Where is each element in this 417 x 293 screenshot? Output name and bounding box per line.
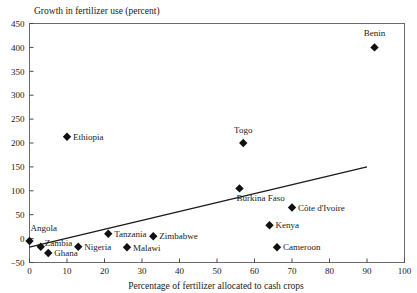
- point-label: Malawi: [133, 243, 161, 253]
- point-marker-tanzania: [104, 230, 112, 238]
- x-tick-label: 70: [288, 266, 298, 276]
- point-marker-benin: [370, 43, 378, 51]
- point-marker-angola: [25, 237, 33, 245]
- chart-title: Growth in fertilizer use (percent): [34, 6, 160, 17]
- data-point: Nigeria: [74, 242, 111, 252]
- point-label: Cameroon: [283, 242, 321, 252]
- data-point: Côte d'Ivoire: [288, 203, 345, 213]
- scatter-chart: −50050100150200250300350400450 010203040…: [0, 0, 417, 293]
- point-label: Ghana: [54, 248, 78, 258]
- x-tick-label: 20: [100, 266, 110, 276]
- point-marker-burkina-faso: [235, 184, 243, 192]
- x-tick-label: 90: [363, 266, 373, 276]
- point-marker-malawi: [123, 243, 131, 251]
- point-marker-zimbabwe: [149, 232, 157, 240]
- y-tick-label: 0: [20, 234, 25, 244]
- chart-canvas: −50050100150200250300350400450 010203040…: [0, 0, 417, 293]
- data-points: BeninEthiopiaTogoBurkina FasoCôte d'Ivoi…: [25, 28, 385, 258]
- data-point: Tanzania: [104, 229, 147, 239]
- y-tick-label: 100: [11, 186, 25, 196]
- data-point: Zimbabwe: [149, 231, 198, 241]
- y-tick-label: 450: [11, 19, 25, 29]
- data-point: Burkina Faso: [235, 184, 285, 203]
- x-tick-label: 0: [27, 266, 32, 276]
- point-marker-c-te-d-ivoire: [288, 203, 296, 211]
- y-tick-label: 150: [11, 162, 25, 172]
- point-marker-togo: [239, 139, 247, 147]
- y-tick-label: 250: [11, 114, 25, 124]
- data-point: Cameroon: [273, 242, 321, 252]
- point-label: Togo: [234, 125, 253, 135]
- point-marker-cameroon: [273, 243, 281, 251]
- data-point: Togo: [234, 125, 253, 147]
- x-tick-label: 50: [213, 266, 223, 276]
- data-point: Ghana: [44, 248, 78, 258]
- x-axis-ticks: 0102030405060708090100: [27, 259, 412, 276]
- x-tick-label: 30: [138, 266, 148, 276]
- point-label: Côte d'Ivoire: [298, 203, 345, 213]
- y-tick-label: 350: [11, 67, 25, 77]
- point-label: Kenya: [276, 220, 300, 230]
- data-point: Benin: [364, 28, 386, 51]
- point-marker-ethiopia: [63, 133, 71, 141]
- point-label: Zimbabwe: [159, 231, 198, 241]
- x-tick-label: 100: [398, 266, 412, 276]
- y-tick-label: −50: [10, 258, 25, 268]
- point-label: Benin: [364, 28, 386, 38]
- x-tick-label: 80: [325, 266, 335, 276]
- data-point: Malawi: [123, 243, 161, 253]
- y-tick-label: 400: [11, 43, 25, 53]
- plot-border: [30, 24, 405, 263]
- y-tick-label: 200: [11, 138, 25, 148]
- point-label: Angola: [31, 223, 58, 233]
- x-axis-title: Percentage of fertilizer allocated to ca…: [128, 281, 304, 291]
- point-label: Nigeria: [84, 242, 111, 252]
- x-tick-label: 40: [175, 266, 185, 276]
- point-label: Burkina Faso: [237, 193, 286, 203]
- y-tick-label: 300: [11, 90, 25, 100]
- y-tick-label: 50: [16, 210, 26, 220]
- point-label: Zambia: [45, 238, 73, 248]
- point-marker-ghana: [44, 249, 52, 257]
- point-label: Tanzania: [114, 229, 146, 239]
- data-point: Kenya: [265, 220, 299, 230]
- point-marker-kenya: [265, 221, 273, 229]
- plot-frame: [30, 24, 405, 263]
- data-point: Ethiopia: [63, 132, 104, 142]
- x-tick-label: 60: [250, 266, 260, 276]
- point-label: Ethiopia: [73, 132, 104, 142]
- x-tick-label: 10: [63, 266, 73, 276]
